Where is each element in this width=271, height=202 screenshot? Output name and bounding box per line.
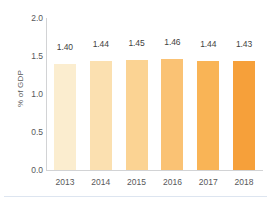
x-axis-tick-label: 2013 xyxy=(55,177,74,187)
y-axis-tick-label: 1.5 xyxy=(3,51,43,61)
x-axis-tick-label: 2016 xyxy=(163,177,182,187)
x-axis-tick-label: 2015 xyxy=(127,177,146,187)
y-axis-tick-label: 1.0 xyxy=(3,89,43,99)
y-axis-tick-label: 0.0 xyxy=(3,165,43,175)
x-axis-tick-label: 2017 xyxy=(199,177,218,187)
bottom-separator-rule xyxy=(4,196,267,197)
x-axis-tick-labels: 201320142015201620172018 xyxy=(47,18,262,202)
y-axis-tick-label: 2.0 xyxy=(3,13,43,23)
x-axis-tick-label: 2014 xyxy=(91,177,110,187)
x-axis-tick-label: 2018 xyxy=(235,177,254,187)
bar-chart-figure: % of GDP 0.00.51.01.52.0 1.401.441.451.4… xyxy=(0,0,271,202)
y-axis-tick-labels: 0.00.51.01.52.0 xyxy=(0,0,43,202)
y-axis-tick-label: 0.5 xyxy=(3,127,43,137)
